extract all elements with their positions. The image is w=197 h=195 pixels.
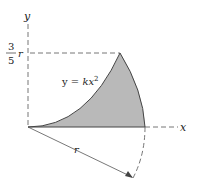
height-variable: r (18, 48, 24, 59)
radius-label: r (74, 144, 80, 155)
height-numerator: 3 (8, 41, 14, 52)
arrowhead-icon (125, 171, 133, 178)
height-denominator: 5 (8, 55, 14, 66)
diagram: y x 3 5 r y = kx2 r (0, 0, 197, 195)
radius-arc (133, 127, 145, 178)
x-axis-label: x (180, 121, 187, 134)
radius-line (28, 127, 132, 177)
y-axis-label: y (23, 10, 31, 23)
curve-equation: y = kx2 (61, 75, 99, 87)
shaded-region (28, 53, 145, 127)
